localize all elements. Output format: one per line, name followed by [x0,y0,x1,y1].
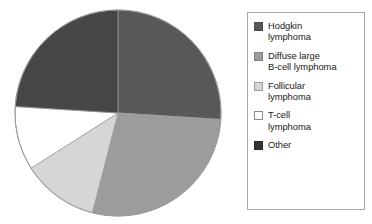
pie-svg [14,9,222,217]
legend-swatch-icon [254,82,263,91]
legend-item-diffuse-large-b-cell-lymphoma[interactable]: Diffuse large B-cell lymphoma [254,50,362,73]
legend-item-label: Follicular lymphoma [268,80,311,103]
legend-item-label: Hodgkin lymphoma [268,20,311,43]
pie-slice-group [15,10,221,216]
pie-slice[interactable] [118,10,221,119]
legend-item-other[interactable]: Other [254,139,362,150]
pie-chart-plot [14,9,222,217]
pie-chart-figure: Hodgkin lymphoma Diffuse large B-cell ly… [0,0,372,224]
legend-swatch-icon [254,111,263,120]
legend-item-label: Diffuse large B-cell lymphoma [268,50,337,73]
pie-slice[interactable] [15,10,118,113]
legend-item-t-cell-lymphoma[interactable]: T-cell lymphoma [254,109,362,132]
legend-item-label: T-cell lymphoma [268,109,311,132]
legend-items-list: Hodgkin lymphoma Diffuse large B-cell ly… [254,20,362,151]
legend-item-hodgkin-lymphoma[interactable]: Hodgkin lymphoma [254,20,362,43]
legend-item-label: Other [268,139,291,150]
legend-swatch-icon [254,52,263,61]
legend-swatch-icon [254,141,263,150]
legend-swatch-icon [254,22,263,31]
legend-item-follicular-lymphoma[interactable]: Follicular lymphoma [254,80,362,103]
legend-box: Hodgkin lymphoma Diffuse large B-cell ly… [247,12,365,210]
